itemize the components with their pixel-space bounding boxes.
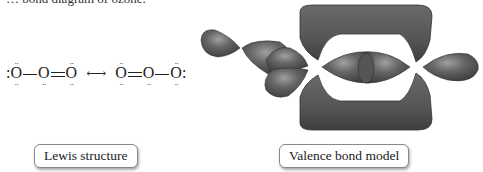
oxygen-atom: ··O··	[66, 64, 78, 82]
valence-bond-model-label: Valence bond model	[279, 144, 409, 168]
double-bond	[51, 72, 65, 77]
caption-partial: … bond diagram of ozone.	[6, 0, 146, 7]
lewis-structure-label: Lewis structure	[34, 144, 138, 168]
valence-bond-orbital-diagram	[200, 0, 483, 135]
single-bond	[155, 74, 169, 75]
oxygen-atom: O··	[143, 64, 155, 82]
oxygen-atom: ··O··	[115, 64, 127, 82]
oxygen-atom: ··O··	[10, 64, 22, 82]
lone-pair-side: :	[182, 64, 186, 81]
lone-pair-lobe-right-icon	[423, 53, 478, 81]
double-bond	[128, 72, 142, 77]
oxygen-atom: ··O··	[170, 64, 182, 82]
resonance-arrow-icon: ⟷	[86, 65, 106, 82]
oxygen-atom: O··	[38, 64, 50, 82]
single-bond	[23, 74, 37, 75]
lewis-structure: :··O··O····O·· ⟷ ··O··O····O··:	[6, 64, 186, 82]
lone-pair-lobe-left-icon	[201, 30, 240, 57]
